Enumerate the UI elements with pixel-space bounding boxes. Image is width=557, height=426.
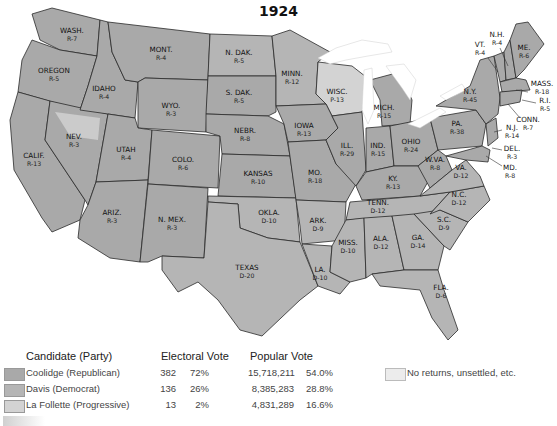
svg-text:MICH.: MICH. <box>374 103 395 112</box>
svg-text:R-29: R-29 <box>340 150 354 157</box>
svg-text:R-14: R-14 <box>505 132 519 139</box>
svg-text:WISC.: WISC. <box>326 87 347 96</box>
svg-text:R-15: R-15 <box>371 150 385 157</box>
svg-text:MD.: MD. <box>503 163 517 172</box>
svg-text:COLO.: COLO. <box>172 155 194 164</box>
svg-text:S.C.: S.C. <box>437 215 451 224</box>
svg-text:R-13: R-13 <box>386 183 400 190</box>
us-election-map-1924: WASH.R-7 OREGONR-5 CALIF.R-13 IDAHOR-4 N… <box>0 0 557 340</box>
svg-text:N.J.: N.J. <box>506 123 518 132</box>
svg-text:R-12: R-12 <box>285 78 299 85</box>
svg-text:R-5: R-5 <box>234 97 244 104</box>
svg-text:R-7: R-7 <box>523 124 533 131</box>
svg-text:R-6: R-6 <box>178 164 188 171</box>
svg-text:R-8: R-8 <box>505 172 515 179</box>
svg-text:D-9: D-9 <box>439 224 450 231</box>
decorative-fade <box>3 416 45 426</box>
svg-text:W.VA.: W.VA. <box>425 155 445 164</box>
svg-text:R-15: R-15 <box>377 112 391 119</box>
svg-text:WASH.: WASH. <box>60 26 84 35</box>
swatch-no-returns <box>385 368 406 381</box>
svg-text:N. DAK.: N. DAK. <box>225 48 252 57</box>
svg-text:ALA.: ALA. <box>373 234 389 243</box>
svg-text:PA.: PA. <box>452 119 463 128</box>
svg-text:R-5: R-5 <box>540 105 550 112</box>
svg-text:D-12: D-12 <box>371 207 386 214</box>
state-connecticut-ri <box>500 90 522 106</box>
svg-text:R-8: R-8 <box>430 164 440 171</box>
svg-text:D-14: D-14 <box>411 242 426 249</box>
svg-text:N.Y.: N.Y. <box>464 87 477 96</box>
svg-text:D-10: D-10 <box>313 274 328 281</box>
svg-text:ARK.: ARK. <box>310 216 327 225</box>
svg-text:MONT.: MONT. <box>149 45 172 54</box>
svg-text:TENN.: TENN. <box>366 198 389 207</box>
svg-text:R-13: R-13 <box>27 160 41 167</box>
svg-text:R-3: R-3 <box>167 224 177 231</box>
svg-text:OHIO: OHIO <box>402 137 421 146</box>
svg-text:UTAH: UTAH <box>116 145 135 154</box>
svg-text:R-8: R-8 <box>240 135 250 142</box>
svg-text:R-4: R-4 <box>99 93 109 100</box>
svg-text:WYO.: WYO. <box>162 101 181 110</box>
lake-superior <box>318 40 392 64</box>
svg-text:MASS.: MASS. <box>531 79 554 88</box>
svg-text:D-12: D-12 <box>454 172 469 179</box>
svg-text:ILL.: ILL. <box>341 141 353 150</box>
svg-text:R-6: R-6 <box>519 52 529 59</box>
svg-text:LA.: LA. <box>314 265 325 274</box>
svg-text:R-10: R-10 <box>251 178 265 185</box>
svg-text:R-24: R-24 <box>404 146 418 153</box>
svg-text:R-4: R-4 <box>492 39 502 46</box>
svg-text:CONN.: CONN. <box>516 115 540 124</box>
svg-text:R-4: R-4 <box>475 49 485 56</box>
legend-header-electoral: Electoral Vote <box>161 350 229 362</box>
legend-header-popular: Popular Vote <box>250 350 313 362</box>
svg-text:R-7: R-7 <box>67 35 77 42</box>
svg-text:DEL.: DEL. <box>504 144 520 153</box>
svg-text:R-4: R-4 <box>156 54 166 61</box>
lake-michigan <box>362 68 374 124</box>
svg-text:KANSAS: KANSAS <box>243 169 272 178</box>
svg-text:R-3: R-3 <box>507 153 517 160</box>
svg-text:ARIZ.: ARIZ. <box>102 208 121 217</box>
svg-text:D-9: D-9 <box>313 225 324 232</box>
svg-text:IDAHO: IDAHO <box>92 84 116 93</box>
svg-text:NEV.: NEV. <box>66 132 82 141</box>
svg-text:OKLA.: OKLA. <box>258 208 280 217</box>
svg-text:D-12: D-12 <box>452 199 467 206</box>
legend-header-candidate: Candidate (Party) <box>26 350 112 362</box>
svg-text:R-18: R-18 <box>535 88 549 95</box>
legend-row-la-follette: La Follette (Progressive) 13 2% 4,831,28… <box>0 399 557 415</box>
svg-text:GA.: GA. <box>412 233 425 242</box>
svg-text:CALIF.: CALIF. <box>23 151 44 160</box>
svg-text:FLA.: FLA. <box>433 283 448 292</box>
svg-text:N. MEX.: N. MEX. <box>158 215 186 224</box>
svg-text:N.H.: N.H. <box>489 30 504 39</box>
svg-text:R-38: R-38 <box>450 128 464 135</box>
svg-text:D-20: D-20 <box>240 272 255 279</box>
svg-text:R-3: R-3 <box>107 217 117 224</box>
svg-text:R-13: R-13 <box>297 130 311 137</box>
svg-text:R-3: R-3 <box>69 141 79 148</box>
svg-text:MINN.: MINN. <box>281 69 302 78</box>
svg-text:MISS.: MISS. <box>338 238 358 247</box>
svg-text:S. DAK.: S. DAK. <box>226 88 252 97</box>
svg-text:D-10: D-10 <box>341 247 356 254</box>
svg-text:R.I.: R.I. <box>539 96 550 105</box>
svg-text:R-4: R-4 <box>121 154 131 161</box>
svg-text:R-45: R-45 <box>463 96 477 103</box>
svg-text:VA.: VA. <box>455 163 467 172</box>
svg-text:R-5: R-5 <box>49 75 59 82</box>
swatch-progressive <box>4 400 25 413</box>
svg-text:D-6: D-6 <box>436 292 447 299</box>
svg-text:R-5: R-5 <box>234 57 244 64</box>
legend: Candidate (Party) Electoral Vote Popular… <box>0 350 557 426</box>
swatch-democrat <box>4 384 25 397</box>
svg-text:D-10: D-10 <box>262 217 277 224</box>
svg-text:ME.: ME. <box>517 43 530 52</box>
state-florida <box>372 270 458 340</box>
swatch-republican <box>4 368 25 381</box>
legend-no-returns: No returns, unsettled, etc. <box>385 367 555 383</box>
svg-text:KY.: KY. <box>388 174 398 183</box>
